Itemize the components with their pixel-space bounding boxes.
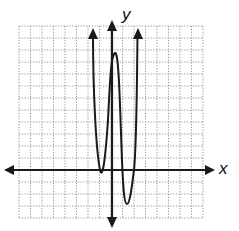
y-axis-up-arrow-icon	[107, 20, 117, 31]
graph-plot	[0, 0, 239, 231]
x-axis-left-arrow-icon	[4, 165, 14, 175]
y-axis-label: y	[122, 6, 131, 23]
axes	[4, 20, 215, 228]
x-axis-label: x	[219, 160, 228, 177]
curve-left-arrow-icon	[88, 28, 98, 39]
polynomial-curve	[88, 28, 143, 204]
y-axis-down-arrow-icon	[107, 217, 117, 228]
x-axis-right-arrow-icon	[205, 165, 215, 175]
curve-right-arrow-icon	[133, 28, 143, 39]
